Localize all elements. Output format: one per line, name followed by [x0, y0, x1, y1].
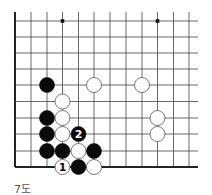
white-stone	[55, 127, 70, 142]
white-stone	[55, 94, 70, 109]
white-stone	[135, 78, 150, 93]
white-stone-circle	[135, 78, 150, 93]
go-board: 21	[0, 0, 212, 195]
white-stone-circle	[87, 78, 102, 93]
white-stone-circle	[150, 127, 165, 142]
black-stone-circle	[40, 144, 55, 159]
black-stone	[55, 144, 70, 159]
white-stone-circle	[150, 111, 165, 126]
white-stone	[87, 160, 102, 175]
stones: 21	[40, 78, 166, 175]
black-stone	[40, 144, 55, 159]
white-stone	[87, 78, 102, 93]
black-stone	[40, 111, 55, 126]
black-stone-circle	[87, 144, 102, 159]
black-stone-circle	[40, 111, 55, 126]
white-stone: 1	[55, 160, 70, 175]
star-point-icon	[61, 19, 65, 23]
black-stone-circle	[55, 144, 70, 159]
stone-move-number: 2	[75, 128, 83, 141]
white-stone-circle	[55, 111, 70, 126]
black-stone	[87, 144, 102, 159]
black-stone: 2	[71, 127, 86, 142]
white-stone-circle	[71, 144, 86, 159]
black-stone	[40, 78, 55, 93]
black-stone-circle	[40, 78, 55, 93]
white-stone-circle	[55, 127, 70, 142]
black-stone-circle	[40, 127, 55, 142]
black-stone	[40, 127, 55, 142]
star-point-icon	[156, 19, 160, 23]
stone-move-number: 1	[59, 161, 67, 174]
diagram-caption: 7도	[14, 180, 31, 195]
black-stone	[71, 160, 86, 175]
white-stone-circle	[87, 160, 102, 175]
white-stone	[150, 127, 165, 142]
white-stone	[55, 111, 70, 126]
white-stone	[71, 144, 86, 159]
white-stone-circle	[55, 94, 70, 109]
black-stone-circle	[71, 160, 86, 175]
white-stone	[150, 111, 165, 126]
